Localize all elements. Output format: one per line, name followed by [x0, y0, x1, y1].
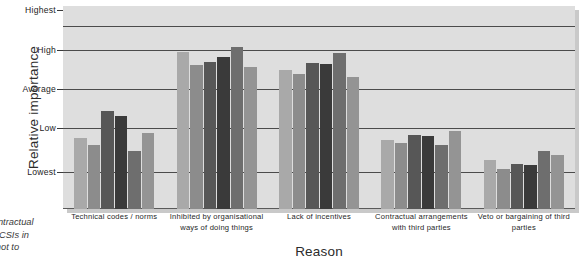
bar[interactable] — [551, 155, 564, 209]
x-tick-label: Contractual arrangements with third part… — [370, 212, 472, 246]
bar[interactable] — [347, 77, 360, 209]
bar[interactable] — [511, 164, 524, 210]
y-tick-high: High — [2, 45, 56, 55]
bar[interactable] — [293, 74, 306, 209]
x-axis-tick-labels: Technical codes / normsInhibited by orga… — [63, 212, 575, 246]
bar[interactable] — [88, 145, 101, 209]
y-tick-average: Average — [2, 84, 56, 94]
y-tick-highest: Highest — [2, 5, 56, 15]
bar[interactable] — [381, 140, 394, 209]
caption-line-2: he CSIs in — [0, 229, 78, 242]
bar[interactable] — [101, 111, 114, 209]
x-tick-label: Technical codes / norms — [63, 212, 165, 246]
bar[interactable] — [74, 138, 87, 209]
caption-line-1: Contractual — [0, 216, 78, 229]
caption-line-3: ct not to — [0, 241, 78, 254]
bar[interactable] — [190, 65, 203, 209]
bar[interactable] — [408, 135, 421, 209]
bar[interactable] — [422, 136, 435, 209]
x-tick-label: Inhibited by organisational ways of doin… — [165, 212, 267, 246]
bar[interactable] — [204, 62, 217, 209]
bar[interactable] — [231, 47, 244, 209]
bar-group — [165, 6, 267, 209]
figure-caption: Contractual he CSIs in ct not to — [0, 216, 78, 254]
bar[interactable] — [435, 145, 448, 209]
x-axis-title: Reason — [63, 244, 575, 259]
chart-root: Relative importance Highest High Average… — [0, 0, 581, 266]
bar[interactable] — [279, 70, 292, 209]
y-tick-low: Low — [2, 123, 56, 133]
bar[interactable] — [333, 53, 346, 209]
bar[interactable] — [115, 116, 128, 209]
bar[interactable] — [142, 133, 155, 209]
bar[interactable] — [497, 169, 510, 209]
bar[interactable] — [395, 143, 408, 209]
bar-group — [63, 6, 165, 209]
bar-groups — [63, 6, 575, 209]
bar-group — [473, 6, 575, 209]
bar[interactable] — [538, 151, 551, 209]
bar[interactable] — [306, 63, 319, 209]
bar[interactable] — [217, 57, 230, 209]
bar[interactable] — [320, 64, 333, 209]
y-tick-lowest: Lowest — [2, 167, 56, 177]
bar-group — [268, 6, 370, 209]
bar[interactable] — [449, 131, 462, 209]
x-tick-label: Veto or bargaining of third parties — [473, 212, 575, 246]
bar[interactable] — [524, 165, 537, 209]
bar[interactable] — [177, 52, 190, 210]
x-tick-label: Lack of incentives — [268, 212, 370, 246]
bar[interactable] — [484, 160, 497, 210]
bar[interactable] — [128, 151, 141, 209]
bar-group — [370, 6, 472, 209]
plot-area — [63, 6, 575, 209]
bar[interactable] — [244, 67, 257, 209]
